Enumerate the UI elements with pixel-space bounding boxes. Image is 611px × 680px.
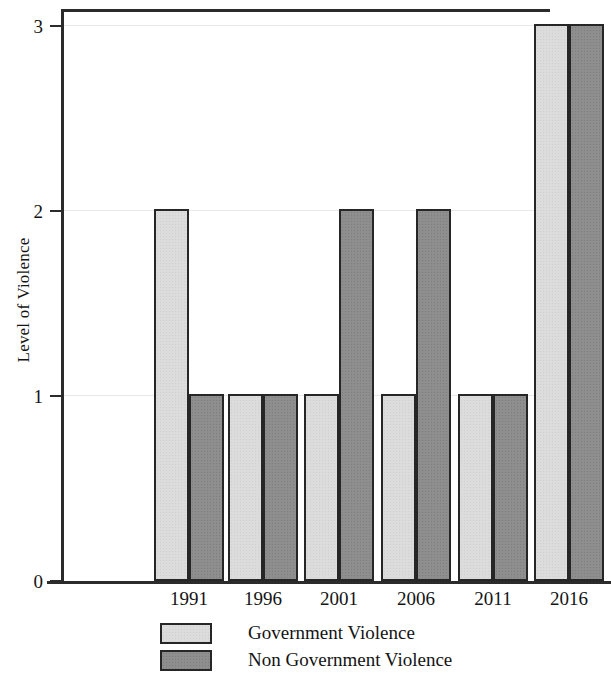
y-tick-mark-3 — [50, 25, 62, 27]
bar-2006-non-government — [416, 209, 451, 581]
y-tick-mark-0 — [50, 580, 62, 582]
chart-legend: Government ViolenceNon Government Violen… — [0, 620, 550, 680]
bar-2011-government — [458, 394, 493, 581]
bar-1996-government — [228, 394, 263, 581]
legend-label: Government Violence — [248, 622, 415, 644]
y-tick-label: 3 — [13, 17, 43, 36]
bar-2006-government — [381, 394, 416, 581]
x-tick-label-2001: 2001 — [299, 588, 379, 610]
x-axis-line — [47, 581, 611, 584]
y-tick-label: 2 — [13, 202, 43, 221]
bar-2016-government — [534, 24, 569, 581]
y-axis-title: Level of Violence — [14, 190, 34, 410]
bar-2011-non-government — [493, 394, 528, 581]
y-tick-mark-1 — [50, 395, 62, 397]
y-tick-label: 0 — [13, 572, 43, 591]
gridline-y-2 — [64, 210, 550, 211]
x-tick-label-2006: 2006 — [376, 588, 456, 610]
x-tick-label-2016: 2016 — [529, 588, 609, 610]
bar-2001-government — [304, 394, 339, 581]
legend-swatch-light-gray — [160, 623, 212, 644]
legend-swatch-dark-gray — [160, 650, 212, 671]
x-tick-label-1996: 1996 — [223, 588, 303, 610]
bar-1996-non-government — [263, 394, 298, 581]
x-tick-label-1991: 1991 — [149, 588, 229, 610]
plot-area: 3210 — [61, 9, 550, 584]
plot-frame-top-border — [61, 9, 550, 12]
bar-1991-non-government — [189, 394, 224, 581]
y-tick-mark-2 — [50, 210, 62, 212]
legend-item-government-violence: Government Violence — [160, 620, 415, 646]
y-tick-label: 1 — [13, 387, 43, 406]
bar-2016-non-government — [569, 24, 604, 581]
legend-item-non-government-violence: Non Government Violence — [160, 647, 452, 673]
y-axis-line — [61, 9, 64, 584]
x-tick-label-2011: 2011 — [453, 588, 533, 610]
gridline-y-3 — [64, 25, 550, 26]
bar-2001-non-government — [339, 209, 374, 581]
legend-label: Non Government Violence — [248, 649, 452, 671]
bar-1991-government — [154, 209, 189, 581]
